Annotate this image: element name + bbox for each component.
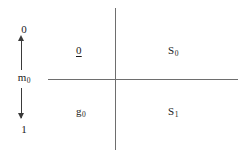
axis-label-bottom: 1 bbox=[0, 124, 48, 135]
measure-axis: 0 m0 1 bbox=[0, 0, 48, 157]
horizontal-divider bbox=[48, 79, 238, 80]
quadrant-label-top-left-base: 0 bbox=[76, 44, 82, 56]
quadrant-label-bottom-right-base: S bbox=[168, 105, 174, 117]
quadrant-label-bottom-right-subscript: 1 bbox=[175, 110, 179, 119]
quadrant-label-bottom-left-subscript: 0 bbox=[82, 110, 86, 119]
axis-label-mid: m0 bbox=[0, 72, 48, 84]
down-arrow-icon bbox=[18, 113, 24, 119]
axis-label-top: 0 bbox=[0, 24, 48, 35]
quadrant-diagram: 0 m0 1 0 S0 g0 S1 bbox=[0, 0, 245, 157]
quadrant-label-bottom-left: g0 bbox=[76, 106, 86, 118]
quadrant-label-top-right-base: S bbox=[168, 44, 174, 56]
quadrant-label-top-left: 0 bbox=[76, 45, 82, 57]
quadrant-label-top-right: S0 bbox=[168, 45, 178, 57]
axis-shaft-upper bbox=[21, 40, 22, 70]
axis-label-mid-base: m bbox=[18, 71, 27, 83]
quadrant-label-top-right-subscript: 0 bbox=[175, 49, 179, 58]
quadrant-label-bottom-left-base: g bbox=[76, 105, 82, 117]
quadrant-label-bottom-right: S1 bbox=[168, 106, 178, 118]
axis-label-mid-subscript: 0 bbox=[27, 76, 31, 85]
